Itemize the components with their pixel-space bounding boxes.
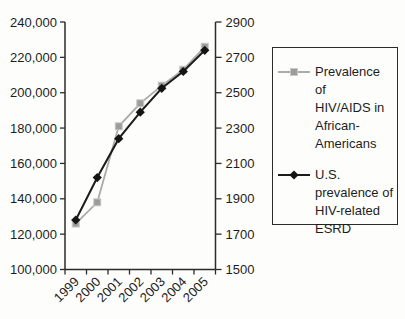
legend-label-hiv-aids: Prevalence of HIV/AIDS in African- Ameri… bbox=[315, 63, 394, 153]
y-left-tick-label: 100,000 bbox=[10, 262, 57, 277]
series-hiv-aids bbox=[72, 43, 208, 227]
y-left-tick-label: 240,000 bbox=[10, 15, 57, 30]
y-right-tick-label: 2700 bbox=[226, 50, 255, 65]
y-right-tick-label: 2500 bbox=[226, 85, 255, 100]
legend-marker-shape bbox=[289, 170, 298, 179]
legend-label-esrd: U.S. prevalence of HIV-related ESRD bbox=[315, 166, 393, 238]
y-left-tick-label: 160,000 bbox=[10, 156, 57, 171]
y-right-tick-label: 1900 bbox=[226, 191, 255, 206]
y-left-tick-label: 220,000 bbox=[10, 50, 57, 65]
legend-entry-hiv-aids: Prevalence of HIV/AIDS in African- Ameri… bbox=[278, 63, 394, 153]
data-point-marker bbox=[93, 173, 102, 182]
chart-figure: 100,000120,000140,000160,000180,000200,0… bbox=[0, 0, 405, 319]
y-left-tick-label: 140,000 bbox=[10, 191, 57, 206]
y-left-tick-label: 200,000 bbox=[10, 85, 57, 100]
x-axis-tick-label: 2005 bbox=[180, 274, 211, 305]
y-left-tick-label: 120,000 bbox=[10, 227, 57, 242]
legend-square-marker-icon bbox=[278, 65, 310, 79]
y-right-tick-label: 2300 bbox=[226, 121, 255, 136]
y-left-tick-label: 180,000 bbox=[10, 121, 57, 136]
y-right-tick-label: 1500 bbox=[226, 262, 255, 277]
data-point-marker bbox=[115, 123, 122, 130]
series-line bbox=[76, 50, 205, 220]
legend-entry-esrd: U.S. prevalence of HIV-related ESRD bbox=[278, 166, 394, 238]
data-point-marker bbox=[137, 100, 144, 107]
y-right-tick-label: 2100 bbox=[226, 156, 255, 171]
series-esrd bbox=[71, 46, 209, 225]
y-right-tick-label: 2900 bbox=[226, 15, 255, 30]
legend: Prevalence of HIV/AIDS in African- Ameri… bbox=[272, 47, 398, 225]
data-point-marker bbox=[94, 199, 101, 206]
y-right-tick-label: 1700 bbox=[226, 227, 255, 242]
legend-diamond-marker-icon bbox=[278, 168, 310, 182]
legend-marker-shape bbox=[291, 69, 298, 76]
